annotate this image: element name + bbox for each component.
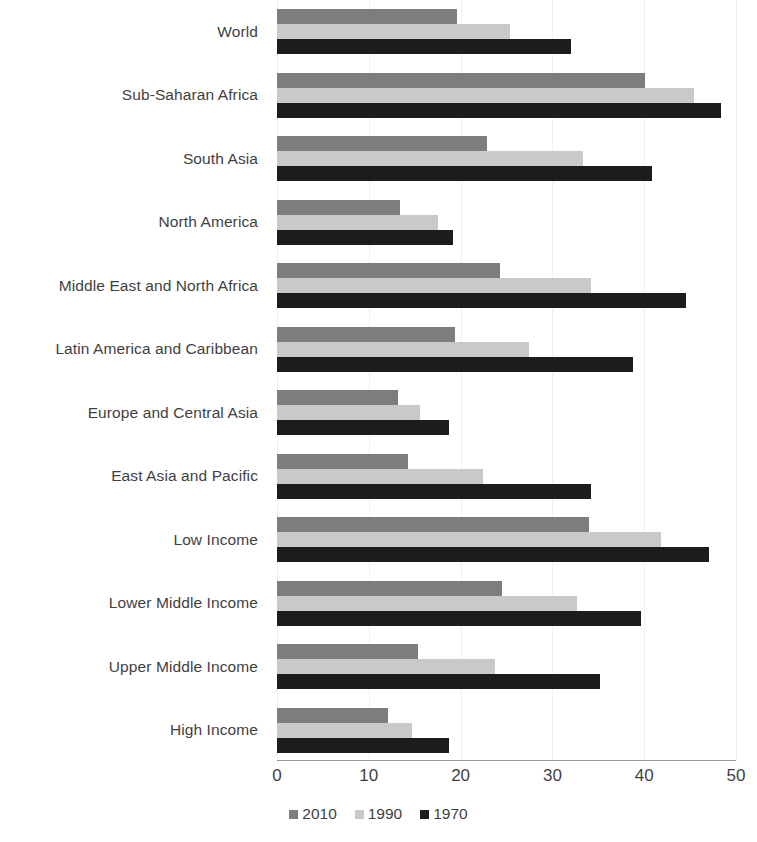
bar-1990 <box>277 215 438 230</box>
x-tick-label: 20 <box>451 766 470 786</box>
category-group: East Asia and Pacific <box>277 445 737 509</box>
bar-2010 <box>277 73 645 88</box>
bar-1990 <box>277 405 420 420</box>
bar-chart: WorldSub-Saharan AfricaSouth AsiaNorth A… <box>0 0 757 842</box>
category-group: High Income <box>277 699 737 763</box>
chart-legend: 201019901970 <box>0 805 757 823</box>
bar-stack <box>277 318 737 382</box>
legend-label: 1990 <box>368 805 402 823</box>
category-label: High Income <box>170 721 258 739</box>
bar-2010 <box>277 644 418 659</box>
bar-stack <box>277 635 737 699</box>
bar-1990 <box>277 342 529 357</box>
category-label: Latin America and Caribbean <box>55 340 258 358</box>
x-tick-label: 30 <box>543 766 562 786</box>
bar-1970 <box>277 547 709 562</box>
x-axis-line <box>277 760 736 761</box>
x-tick-label: 50 <box>727 766 746 786</box>
bar-2010 <box>277 454 408 469</box>
category-group: Latin America and Caribbean <box>277 318 737 382</box>
bar-stack <box>277 445 737 509</box>
bar-1970 <box>277 420 449 435</box>
legend-swatch-icon <box>289 810 298 819</box>
bar-2010 <box>277 327 455 342</box>
category-label: World <box>217 23 258 41</box>
category-group: Middle East and North Africa <box>277 254 737 318</box>
category-label: Upper Middle Income <box>109 658 258 676</box>
category-group: North America <box>277 191 737 255</box>
legend-item-1990[interactable]: 1990 <box>355 805 402 823</box>
bar-2010 <box>277 581 502 596</box>
bar-stack <box>277 572 737 636</box>
x-tick-label: 40 <box>635 766 654 786</box>
bar-stack <box>277 381 737 445</box>
bar-2010 <box>277 517 589 532</box>
bar-1970 <box>277 611 641 626</box>
category-label: East Asia and Pacific <box>111 467 258 485</box>
category-label: Middle East and North Africa <box>59 277 258 295</box>
category-group: Upper Middle Income <box>277 635 737 699</box>
legend-swatch-icon <box>355 810 364 819</box>
bar-stack <box>277 508 737 572</box>
bar-2010 <box>277 9 457 24</box>
bar-1970 <box>277 484 591 499</box>
bar-1970 <box>277 674 600 689</box>
bar-stack <box>277 127 737 191</box>
category-label: Europe and Central Asia <box>88 404 258 422</box>
category-group: Low Income <box>277 508 737 572</box>
bar-1990 <box>277 469 483 484</box>
bar-1990 <box>277 532 661 547</box>
legend-swatch-icon <box>420 810 429 819</box>
bar-2010 <box>277 200 400 215</box>
bar-1990 <box>277 278 591 293</box>
bar-1970 <box>277 103 721 118</box>
legend-item-1970[interactable]: 1970 <box>420 805 467 823</box>
x-tick-label: 10 <box>359 766 378 786</box>
category-group: Europe and Central Asia <box>277 381 737 445</box>
bar-1990 <box>277 151 583 166</box>
category-group: World <box>277 0 737 64</box>
bar-stack <box>277 64 737 128</box>
category-label: Low Income <box>173 531 258 549</box>
bar-1990 <box>277 24 510 39</box>
category-label: Lower Middle Income <box>109 594 258 612</box>
category-label: Sub-Saharan Africa <box>122 86 258 104</box>
bar-stack <box>277 254 737 318</box>
bar-2010 <box>277 708 388 723</box>
category-label: North America <box>159 213 259 231</box>
bar-2010 <box>277 263 500 278</box>
legend-label: 1970 <box>433 805 467 823</box>
bar-2010 <box>277 136 487 151</box>
bar-1970 <box>277 39 571 54</box>
legend-label: 2010 <box>302 805 336 823</box>
bar-1970 <box>277 293 686 308</box>
bar-1970 <box>277 738 449 753</box>
bar-1990 <box>277 88 694 103</box>
bar-1990 <box>277 723 412 738</box>
bar-2010 <box>277 390 398 405</box>
x-axis-tick-labels: 01020304050 <box>0 766 757 794</box>
category-group: Sub-Saharan Africa <box>277 64 737 128</box>
bar-1970 <box>277 166 652 181</box>
bar-1990 <box>277 596 577 611</box>
bar-1970 <box>277 230 453 245</box>
plot-area: WorldSub-Saharan AfricaSouth AsiaNorth A… <box>277 0 737 762</box>
bar-stack <box>277 191 737 255</box>
bar-stack <box>277 0 737 64</box>
category-label: South Asia <box>183 150 258 168</box>
bar-stack <box>277 699 737 763</box>
category-group: Lower Middle Income <box>277 572 737 636</box>
bar-1970 <box>277 357 633 372</box>
legend-item-2010[interactable]: 2010 <box>289 805 336 823</box>
bar-1990 <box>277 659 495 674</box>
category-group: South Asia <box>277 127 737 191</box>
x-tick-label: 0 <box>272 766 281 786</box>
